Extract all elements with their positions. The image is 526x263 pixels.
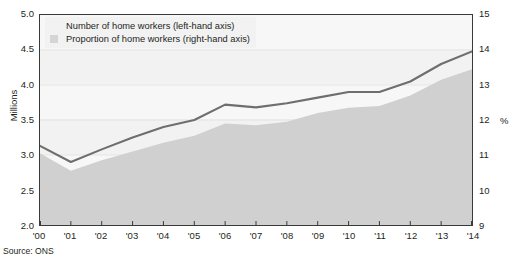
left-tick-label: 2.0 [2,221,34,231]
chart-legend: Number of home workers (left-hand axis) … [45,17,256,48]
right-tick-label: 10 [479,186,490,196]
area-swatch-icon [50,35,58,43]
left-tick-label: 4.5 [2,44,34,54]
legend-item-number: Number of home workers (left-hand axis) [48,20,250,33]
legend-label-proportion: Proportion of home workers (right-hand a… [66,33,250,46]
left-tick-label: 2.5 [2,186,34,196]
right-tick-label: 14 [479,44,490,54]
home-workers-chart: Millions % 2.02.53.03.54.04.55.0 9101112… [0,0,526,263]
right-tick-label: 9 [479,221,484,231]
right-axis-title: % [500,115,508,126]
x-tick-label: '14 [453,231,493,241]
right-tick-label: 12 [479,115,490,125]
legend-label-number: Number of home workers (left-hand axis) [66,20,234,33]
left-tick-label: 5.0 [2,9,34,19]
source-note: Source: ONS [3,246,54,256]
right-tick-label: 13 [479,80,490,90]
left-tick-label: 4.0 [2,80,34,90]
legend-item-proportion: Proportion of home workers (right-hand a… [48,33,250,46]
right-tick-label: 11 [479,150,489,160]
right-tick-label: 15 [479,9,490,19]
left-tick-label: 3.0 [2,150,34,160]
left-tick-label: 3.5 [2,115,34,125]
